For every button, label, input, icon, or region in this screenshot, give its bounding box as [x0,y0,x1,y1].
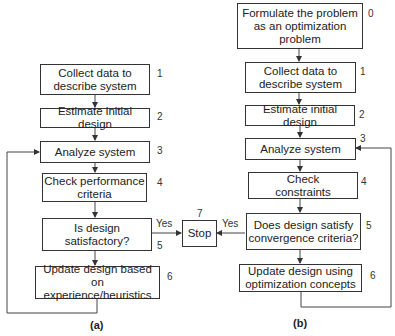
step-a-3-box: Analyze system [40,141,150,163]
step-a-6-number: 6 [167,271,173,282]
step-a-1-box: Collect data to describe system [40,64,150,95]
step-b-4-number: 4 [361,176,367,187]
step-b-0-number: 0 [368,8,374,19]
step-a-4-number: 4 [157,177,163,188]
step-b-2-box: Estimate initial design [245,105,355,126]
caption-a: (a) [90,319,103,331]
step-a-4-box: Check performance criteria [42,173,147,202]
step-a-6-box: Update design based on experience/heuris… [35,266,160,299]
yes-label-b: Yes [222,218,238,229]
step-a-1-number: 1 [157,68,163,79]
step-a-2-box: Estimate initial design [40,108,150,128]
step-a-2-number: 2 [157,111,163,122]
stop-box: Stop [182,220,217,247]
step-b-6-box: Update design using optimization concept… [239,264,362,292]
yes-label-a: Yes [156,218,172,229]
step-b-5-box: Does design satisfy convergence criteria… [246,213,361,250]
step-a-5-number: 5 [157,240,163,251]
step-a-5-box: Is design satisfactory? [42,218,152,251]
caption-b: (b) [293,317,307,329]
step-b-2-number: 2 [359,109,365,120]
step-b-6-number: 6 [370,270,376,281]
step-b-3-box: Analyze system [245,138,356,160]
step-a-3-number: 3 [157,145,163,156]
stop-number: 7 [197,208,203,219]
step-b-1-number: 1 [360,66,366,77]
step-b-5-number: 5 [366,220,372,231]
step-b-1-box: Collect data to describe system [245,62,356,93]
step-b-4-box: Check constraints [248,172,358,199]
step-b-3-number: 3 [360,133,366,144]
step-b-0-box: Formulate the problem as an optimization… [237,3,363,49]
